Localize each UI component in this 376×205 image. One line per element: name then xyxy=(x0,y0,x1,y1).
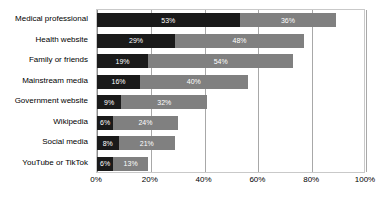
bar-segment-series-2: 36% xyxy=(240,13,337,27)
category-label: Family or friends xyxy=(0,53,88,67)
bar-segment-series-2: 32% xyxy=(121,95,207,109)
bar-segment-value: 24% xyxy=(138,119,152,126)
stacked-bar-chart: Medical professionalHealth websiteFamily… xyxy=(0,0,376,205)
bar-segment-series-2: 21% xyxy=(119,136,175,150)
bar-segment-value: 53% xyxy=(161,17,175,24)
bar-segment-value: 40% xyxy=(187,78,201,85)
gridline-100 xyxy=(366,10,367,172)
category-label: Health website xyxy=(0,33,88,47)
bar-segment-series-1: 8% xyxy=(97,136,119,150)
bar-segment-value: 54% xyxy=(214,58,228,65)
bar-segment-series-2: 48% xyxy=(175,34,304,48)
x-tick-label: 40% xyxy=(196,175,212,184)
bar-segment-series-1: 19% xyxy=(97,54,148,68)
bar-segment-value: 8% xyxy=(103,140,113,147)
bar-segment-value: 13% xyxy=(124,160,138,167)
bar-row: 53%36% xyxy=(97,13,336,27)
bar-row: 16%40% xyxy=(97,75,248,89)
category-axis-labels: Medical professionalHealth websiteFamily… xyxy=(0,9,92,173)
category-label: YouTube or TikTok xyxy=(0,156,88,170)
bar-segment-series-1: 9% xyxy=(97,95,121,109)
category-label: Wikipedia xyxy=(0,115,88,129)
value-axis-labels: 0%20%40%60%80%100% xyxy=(96,175,365,191)
category-label: Government website xyxy=(0,94,88,108)
bar-segment-series-1: 6% xyxy=(97,157,113,171)
x-tick-label: 0% xyxy=(90,175,102,184)
bar-row: 6%24% xyxy=(97,116,178,130)
bar-segment-series-1: 6% xyxy=(97,116,113,130)
bar-row: 19%54% xyxy=(97,54,293,68)
bar-segment-value: 36% xyxy=(281,17,295,24)
category-label: Medical professional xyxy=(0,12,88,26)
bar-segment-series-2: 40% xyxy=(140,75,248,89)
category-label: Social media xyxy=(0,135,88,149)
bar-segment-series-2: 24% xyxy=(113,116,178,130)
bar-segment-value: 19% xyxy=(116,58,130,65)
x-tick-label: 20% xyxy=(142,175,158,184)
x-tick-label: 80% xyxy=(303,175,319,184)
bar-segment-series-1: 53% xyxy=(97,13,240,27)
bar-rows: 53%36%29%48%19%54%16%40%9%32%6%24%8%21%6… xyxy=(97,10,364,172)
bar-segment-value: 6% xyxy=(100,160,110,167)
bar-segment-series-2: 54% xyxy=(148,54,293,68)
bar-row: 29%48% xyxy=(97,34,304,48)
bar-segment-value: 29% xyxy=(129,37,143,44)
x-tick-label: 60% xyxy=(249,175,265,184)
bar-row: 8%21% xyxy=(97,136,175,150)
bar-segment-value: 9% xyxy=(104,99,114,106)
bar-segment-series-2: 13% xyxy=(113,157,148,171)
category-label: Mainstream media xyxy=(0,74,88,88)
bar-segment-value: 6% xyxy=(100,119,110,126)
bar-segment-value: 48% xyxy=(233,37,247,44)
bar-segment-series-1: 16% xyxy=(97,75,140,89)
bar-row: 6%13% xyxy=(97,157,148,171)
x-tick-label: 100% xyxy=(355,175,375,184)
bar-segment-value: 16% xyxy=(112,78,126,85)
plot-area: 53%36%29%48%19%54%16%40%9%32%6%24%8%21%6… xyxy=(96,9,365,173)
bar-segment-series-1: 29% xyxy=(97,34,175,48)
bar-segment-value: 32% xyxy=(157,99,171,106)
bar-row: 9%32% xyxy=(97,95,207,109)
bar-segment-value: 21% xyxy=(140,140,154,147)
